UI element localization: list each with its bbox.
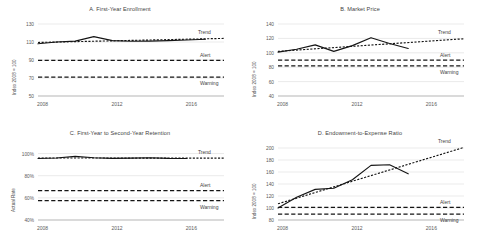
panel-d-plot-xtick: 2016 — [426, 225, 437, 231]
threshold-label-alert: Alert — [200, 52, 210, 58]
panel-b-plot-xtick: 2012 — [351, 101, 362, 107]
panel-a-plot — [38, 24, 224, 96]
panel-d-plot-ytick: 80 — [252, 218, 274, 223]
panel-a-title: A. First-Year Enrollment — [0, 6, 240, 12]
panel-b-plot-xtick: 2016 — [426, 101, 437, 107]
trend-label: Trend — [438, 138, 451, 144]
panel-a-first-year-enrollment: A. First-Year Enrollment Index 2008 = 10… — [0, 0, 240, 124]
panel-b-plot-canvas — [278, 24, 464, 96]
panel-a-plot-ytick: 110 — [12, 40, 34, 45]
panel-b-plot-xtick: 2008 — [277, 101, 288, 107]
panel-d-title: D. Endowment-to-Expense Ratio — [240, 130, 480, 136]
panel-c-plot-ytick: 60% — [12, 195, 34, 200]
panel-c-plot-ytick: 40% — [12, 218, 34, 223]
threshold-label-alert: Alert — [440, 52, 450, 58]
panel-c-plot-ytick: 100% — [12, 151, 34, 156]
panel-c-retention: C. First-Year to Second-Year Retention A… — [0, 124, 240, 248]
panel-d-plot-ytick: 200 — [252, 146, 274, 151]
panel-d-plot — [278, 148, 464, 220]
panel-b-plot-ytick: 60 — [252, 79, 274, 84]
threshold-label-warning: Warning — [440, 217, 458, 223]
panel-a-plot-ytick: 50 — [12, 94, 34, 99]
panel-c-plot-xtick: 2012 — [111, 225, 122, 231]
panel-a-plot-xtick: 2012 — [111, 101, 122, 107]
panel-d-plot-ytick: 120 — [252, 194, 274, 199]
panel-b-plot-ytick: 140 — [252, 22, 274, 27]
threshold-label-warning: Warning — [200, 204, 218, 210]
panel-b-title: B. Market Price — [240, 6, 480, 12]
series-actual — [278, 165, 408, 208]
panel-c-plot-xtick: 2008 — [37, 225, 48, 231]
panel-a-plot-ytick: 70 — [12, 76, 34, 81]
panel-a-plot-ytick: 130 — [12, 22, 34, 27]
series-trend — [278, 39, 464, 52]
panel-d-plot-xtick: 2012 — [351, 225, 362, 231]
trend-label: Trend — [198, 29, 211, 35]
panel-a-plot-xtick: 2016 — [186, 101, 197, 107]
panel-c-plot — [38, 148, 224, 220]
panel-b-market-price: B. Market Price Index 2008 = 100 1401201… — [240, 0, 480, 124]
threshold-label-warning: Warning — [200, 80, 218, 86]
panel-c-plot-ytick: 80% — [12, 173, 34, 178]
panel-d-plot-ytick: 180 — [252, 158, 274, 163]
panel-d-endowment-to-expense-ratio: D. Endowment-to-Expense Ratio Index 2008… — [240, 124, 480, 248]
threshold-label-warning: Warning — [440, 69, 458, 75]
panel-a-plot-xtick: 2008 — [37, 101, 48, 107]
series-trend — [278, 147, 464, 203]
panel-b-plot-ytick: 40 — [252, 94, 274, 99]
panel-b-plot-ytick: 100 — [252, 50, 274, 55]
panel-d-plot-ytick: 140 — [252, 182, 274, 187]
panel-b-plot-ytick: 80 — [252, 65, 274, 70]
panel-c-plot-canvas — [38, 148, 224, 220]
panel-d-y-axis-title: Index 2008 = 100 — [252, 183, 257, 219]
trend-label: Trend — [198, 149, 211, 155]
panel-d-plot-ytick: 100 — [252, 206, 274, 211]
trend-label: Trend — [438, 29, 451, 35]
panel-a-plot-ytick: 90 — [12, 58, 34, 63]
panel-c-title: C. First-Year to Second-Year Retention — [0, 130, 240, 136]
panel-d-plot-ytick: 160 — [252, 170, 274, 175]
panel-d-plot-canvas — [278, 148, 464, 220]
threshold-label-alert: Alert — [200, 182, 210, 188]
panel-c-plot-xtick: 2016 — [186, 225, 197, 231]
panel-b-plot — [278, 24, 464, 96]
panel-b-plot-ytick: 120 — [252, 36, 274, 41]
chart-grid: A. First-Year Enrollment Index 2008 = 10… — [0, 0, 480, 248]
threshold-label-alert: Alert — [440, 199, 450, 205]
panel-d-plot-xtick: 2008 — [277, 225, 288, 231]
panel-a-plot-canvas — [38, 24, 224, 96]
